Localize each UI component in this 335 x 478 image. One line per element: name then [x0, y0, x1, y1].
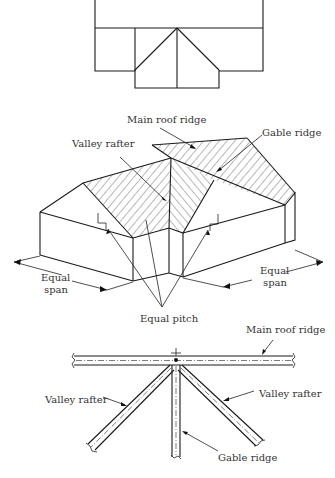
top-plan-view [95, 0, 263, 88]
label-valley-rafter: Valley rafter [71, 138, 135, 149]
plan-valley-right [177, 28, 219, 70]
label-equal-span-left-2: span [44, 284, 68, 295]
roof-framing-diagram: Main roof ridge Gable ridge Valley rafte… [0, 0, 335, 478]
label-equal-span-right-2: span [263, 277, 287, 288]
framing-detail-view: Main roof ridge Valley rafter Valley raf… [44, 324, 326, 463]
label-main-roof-ridge: Main roof ridge [127, 114, 207, 125]
label-detail-valley-rafter-right: Valley rafter [258, 388, 322, 399]
label-detail-valley-rafter-left: Valley rafter [44, 394, 108, 405]
label-detail-gable-ridge: Gable ridge [218, 452, 277, 463]
label-equal-span-left-1: Equal [41, 272, 70, 283]
label-gable-ridge: Gable ridge [262, 127, 321, 138]
label-detail-main-roof-ridge: Main roof ridge [246, 324, 326, 335]
label-equal-pitch: Equal pitch [140, 313, 199, 324]
isometric-house-view: Main roof ridge Gable ridge Valley rafte… [0, 114, 335, 324]
label-equal-span-right-1: Equal [260, 265, 289, 276]
plan-valley-left [135, 28, 177, 70]
